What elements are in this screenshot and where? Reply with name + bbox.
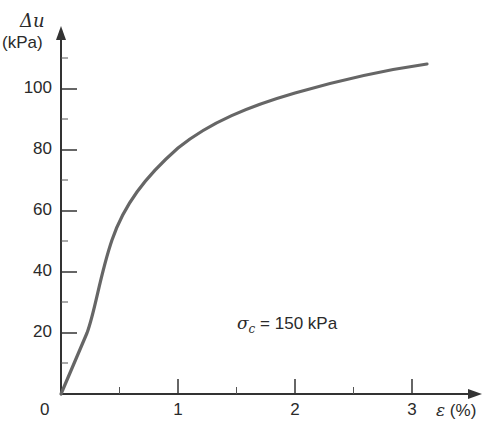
y-axis-unit: (kPa) — [2, 33, 43, 53]
x-axis-arrow-icon — [468, 389, 482, 399]
chart-canvas — [0, 0, 488, 434]
y-axis-symbol: Δu — [20, 10, 45, 31]
y-tick-label-20: 20 — [12, 322, 52, 342]
x-axis-symbol: ε — [436, 400, 445, 420]
x-axis-title: ε (%) — [436, 400, 476, 421]
pore-pressure-curve — [61, 64, 427, 394]
y-major-ticks — [61, 89, 77, 333]
y-tick-label-40: 40 — [12, 261, 52, 281]
y-tick-label-100: 100 — [12, 78, 52, 98]
origin-label: 0 — [40, 400, 49, 420]
y-axis-arrow-icon — [56, 26, 66, 40]
x-tick-label-3: 3 — [402, 400, 422, 420]
y-tick-label-60: 60 — [12, 200, 52, 220]
sigma-annotation: σc = 150 kPa — [237, 313, 337, 336]
x-axis-unit: (%) — [450, 401, 476, 420]
annotation-value: = 150 kPa — [255, 314, 337, 333]
y-tick-label-80: 80 — [12, 139, 52, 159]
x-tick-label-1: 1 — [168, 400, 188, 420]
annotation-sigma: σ — [237, 313, 249, 333]
x-tick-label-2: 2 — [285, 400, 305, 420]
x-major-ticks — [178, 379, 412, 394]
x-minor-ticks — [120, 387, 354, 394]
